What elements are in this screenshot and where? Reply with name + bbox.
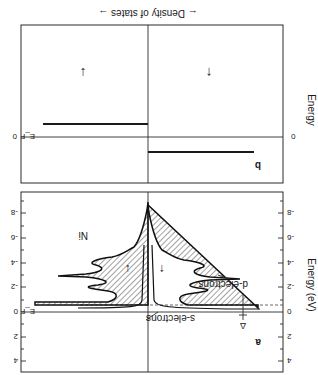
tick-m8-left: -8: [286, 208, 294, 217]
tick-m4-left: -4: [286, 258, 294, 267]
spin-down-arrow: ↓: [80, 65, 87, 81]
d-band-spin-down: [148, 205, 258, 308]
d-electrons-label: d-electrons: [199, 279, 248, 290]
panel-a-label: a: [255, 337, 261, 348]
delta-label: Δ: [240, 321, 246, 331]
panel-a-spin-up-arrow: ↑: [159, 262, 165, 276]
tick-m8-right: -8: [10, 208, 18, 217]
tick-2-right: 2: [13, 332, 18, 341]
panel-b-fermi-label: E_F: [20, 132, 35, 141]
ni-density-of-states-figure: ← Density of states → 0 0 E_F b ↑ ↓ Ener…: [0, 0, 318, 375]
panel-a-spin-down-arrow: ↓: [125, 262, 131, 276]
tick-2-left: 2: [286, 332, 291, 341]
panel-a-fermi-label: E_F: [20, 307, 35, 316]
ni-label: Ni: [79, 230, 88, 241]
spin-up-arrow: ↑: [206, 65, 213, 81]
panel-b-tick-right: 0: [12, 132, 17, 141]
tick-m6-left: -6: [286, 233, 294, 242]
tick-4-left: 4: [286, 356, 291, 365]
panel-b-energy-label: Energy: [306, 94, 317, 126]
tick-4-right: 4: [13, 356, 18, 365]
tick-m4-right: -4: [10, 258, 18, 267]
tick-m6-right: -6: [10, 233, 18, 242]
tick-m2-left: -2: [286, 282, 294, 291]
d-band-spin-up: [35, 202, 148, 305]
panel-a-energy-label: Energy (eV): [306, 258, 317, 311]
density-of-states-label: ← Density of states →: [98, 8, 197, 19]
tick-0-left: 0: [286, 307, 291, 316]
panel-b: 0 0 E_F b ↑ ↓ Energy: [12, 25, 317, 183]
panel-a: 4 2 0 -2 -4 -6 -8 4 2 0 -2 -4 -6 -8: [10, 192, 317, 372]
tick-0-right: 0: [13, 307, 18, 316]
panel-b-tick-left: 0: [290, 132, 295, 141]
panel-b-label: b: [255, 160, 261, 171]
tick-m2-right: -2: [10, 282, 18, 291]
